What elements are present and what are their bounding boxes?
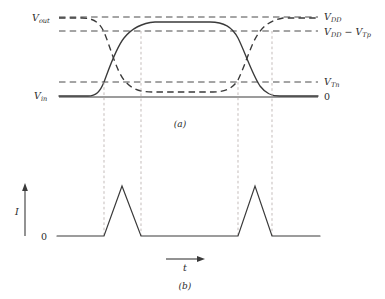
label-v-in: Vin [34,90,47,103]
label-zero-panel-a: 0 [324,91,330,102]
label-v-out: Vout [32,12,50,25]
curve-v-out [59,22,318,96]
panel-b-label: (b) [179,281,192,291]
label-time-t: t [183,262,187,273]
label-vtn: VTn [324,76,340,89]
label-current-i: I [14,206,19,217]
current-axis-arrowhead [22,183,28,191]
panel-b-group: I 0 t (b) [14,183,320,291]
time-axis-arrowhead [197,256,205,262]
label-vdd: VDD [324,11,342,24]
curve-short-circuit-current [57,186,320,236]
panel-a-group: VDD VDD − VTp VTn 0 Vout Vin (a) [32,11,372,129]
label-vdd-minus-vtp: VDD − VTp [324,26,372,39]
cmos-inverter-figure: VDD VDD − VTp VTn 0 Vout Vin (a) I 0 [0,0,385,299]
panel-a-label: (a) [174,119,187,129]
label-zero-panel-b: 0 [41,231,47,242]
curve-v-in [59,18,318,92]
